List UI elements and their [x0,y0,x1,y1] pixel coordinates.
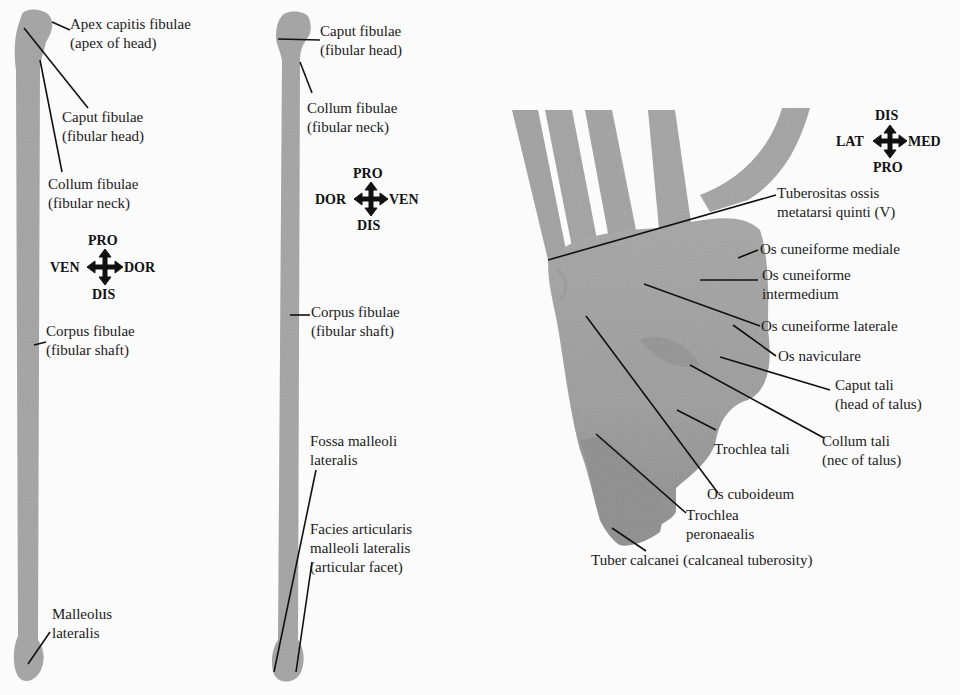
label-line: (fibular head) [320,41,402,60]
label-collum-fibulae-middle: Collum fibulae (fibular neck) [307,99,397,137]
four-way-arrow-icon-left [87,249,123,285]
label-line: (head of talus) [835,395,922,414]
label-line: (fibular shaft) [311,322,400,341]
label-line: Os cuboideum [707,485,794,504]
label-line: (nec of talus) [822,451,901,470]
compass-right: DOR [124,260,155,276]
label-line: lateralis [52,624,112,643]
label-caput-fibulae-middle: Caput fibulae (fibular head) [320,22,402,60]
label-line: (fibular shaft) [46,341,135,360]
middle-fibula-bone [272,12,311,682]
label-os-naviculare: Os naviculare [778,347,861,366]
compass-bottom: DIS [357,218,380,234]
label-trochlea-tali: Trochlea tali [714,440,790,459]
compass-bottom: DIS [92,287,115,303]
label-apex-capitis-fibulae: Apex capitis fibulae (apex of head) [70,15,191,53]
label-line: Corpus fibulae [46,322,135,341]
compass-right: MED [908,134,941,150]
label-line: (articular facet) [310,558,412,577]
compass-top: DIS [875,108,898,124]
label-line: (fibular neck) [307,118,397,137]
label-line: malleoli lateralis [310,539,412,558]
label-line: Caput fibulae [320,22,402,41]
label-line: Collum fibulae [48,175,138,194]
label-trochlea-peronaealis: Trochlea peronaealis [686,506,754,544]
label-tuberositas-ossis-metatarsi-quinti: Tuberositas ossis metatarsi quinti (V) [777,184,895,222]
label-collum-fibulae-left: Collum fibulae (fibular neck) [48,175,138,213]
label-line: (fibular neck) [48,194,138,213]
label-line: Caput tali [835,376,922,395]
label-tuber-calcanei: Tuber calcanei (calcaneal tuberosity) [591,551,812,570]
label-line: (apex of head) [70,34,191,53]
label-os-cuneiforme-mediale: Os cuneiforme mediale [760,240,900,259]
label-os-cuneiforme-laterale: Os cuneiforme laterale [761,317,898,336]
compass-bottom: PRO [873,160,903,176]
label-line: Malleolus [52,605,112,624]
label-line: Tuber calcanei (calcaneal tuberosity) [591,551,812,570]
label-corpus-fibulae-left: Corpus fibulae (fibular shaft) [46,322,135,360]
compass-top: PRO [353,166,383,182]
compass-left: VEN [50,260,80,276]
label-line: Collum tali [822,432,901,451]
compass-top: PRO [88,233,118,249]
label-line: Facies articularis [310,520,412,539]
label-caput-fibulae-left: Caput fibulae (fibular head) [62,108,144,146]
four-way-arrow-icon-middle [354,182,388,216]
compass-left: DOR [315,192,346,208]
label-collum-tali: Collum tali (nec of talus) [822,432,901,470]
compass-left: LAT [836,134,864,150]
label-os-cuneiforme-intermedium: Os cuneiforme intermedium [762,266,851,304]
label-line: Tuberositas ossis [777,184,895,203]
label-malleolus-lateralis: Malleolus lateralis [52,605,112,643]
label-line: peronaealis [686,525,754,544]
label-line: Fossa malleoli [310,432,397,451]
label-line: Apex capitis fibulae [70,15,191,34]
label-line: lateralis [310,451,397,470]
label-caput-tali: Caput tali (head of talus) [835,376,922,414]
label-corpus-fibulae-middle: Corpus fibulae (fibular shaft) [311,303,400,341]
label-line: Corpus fibulae [311,303,400,322]
label-line: Os cuneiforme [762,266,851,285]
label-os-cuboideum: Os cuboideum [707,485,794,504]
label-line: Os naviculare [778,347,861,366]
four-way-arrow-icon-foot [873,125,907,158]
label-line: Collum fibulae [307,99,397,118]
label-line: metatarsi quinti (V) [777,203,895,222]
label-line: Trochlea [686,506,754,525]
label-line: intermedium [762,285,851,304]
label-facies-articularis-malleoli-lateralis: Facies articularis malleoli lateralis (a… [310,520,412,577]
label-line: (fibular head) [62,127,144,146]
label-line: Os cuneiforme laterale [761,317,898,336]
compass-right: VEN [389,192,419,208]
label-line: Trochlea tali [714,440,790,459]
label-fossa-malleoli-lateralis: Fossa malleoli lateralis [310,432,397,470]
label-line: Os cuneiforme mediale [760,240,900,259]
label-line: Caput fibulae [62,108,144,127]
